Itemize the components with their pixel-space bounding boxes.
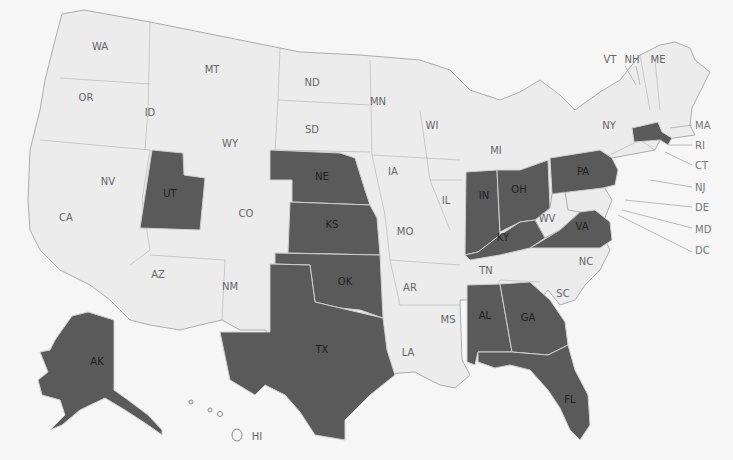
label-sd: SD [305,124,319,135]
label-ca: CA [59,212,73,223]
label-mn: MN [370,96,386,107]
label-me: ME [651,54,666,65]
label-mi: MI [490,145,502,156]
state-fl [478,345,590,440]
label-tx: TX [315,344,329,355]
label-wa: WA [92,41,108,52]
label-va: VA [575,221,588,232]
label-fl: FL [564,394,576,405]
label-ar: AR [403,282,417,293]
label-ia: IA [388,166,398,177]
us-map: WA OR CA NV ID MT WY UT CO AZ NM ND SD N… [0,0,733,460]
label-nh: NH [625,54,640,65]
label-dc: DC [695,245,710,256]
label-ri: RI [695,140,705,151]
label-nm: NM [222,281,238,292]
label-ny: NY [602,120,616,131]
label-ct: CT [695,160,709,171]
label-az: AZ [151,269,165,280]
label-ak: AK [90,356,104,367]
label-ma: MA [695,120,711,131]
label-mo: MO [397,226,414,237]
label-wv: WV [539,213,556,224]
label-pa: PA [577,166,589,177]
label-ky: KY [497,232,510,243]
label-hi: HI [252,431,262,442]
label-mt: MT [205,64,221,75]
label-wi: WI [426,120,439,131]
label-de: DE [695,202,709,213]
label-wy: WY [222,138,239,149]
label-la: LA [402,347,415,358]
label-il: IL [442,195,451,206]
callout-labels: MA RI CT NJ DE MD DC [695,120,712,256]
label-in: IN [479,190,489,201]
label-nd: ND [304,77,319,88]
state-hi [189,400,242,441]
label-nj: NJ [695,182,705,193]
label-oh: OH [511,184,526,195]
label-md: MD [695,224,712,235]
label-sc: SC [556,288,569,299]
label-co: CO [239,208,254,219]
label-ut: UT [163,188,177,199]
label-ks: KS [326,219,339,230]
label-ne: NE [315,171,329,182]
label-tn: TN [478,265,493,276]
label-id: ID [145,107,156,118]
label-nc: NC [579,256,593,267]
label-al: AL [479,310,492,321]
label-nv: NV [101,176,115,187]
label-ms: MS [441,314,456,325]
label-or: OR [79,92,94,103]
us-map-svg: WA OR CA NV ID MT WY UT CO AZ NM ND SD N… [0,0,733,460]
label-ga: GA [521,312,536,323]
label-ok: OK [338,276,353,287]
label-vt: VT [604,54,618,65]
state-ak [38,312,162,435]
